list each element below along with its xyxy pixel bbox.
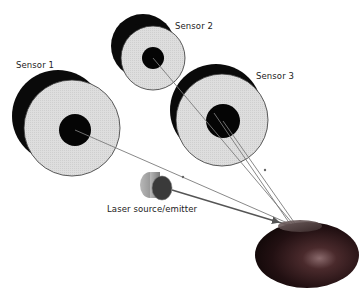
laser-emitter — [140, 172, 172, 200]
sensor-2-label: Sensor 2 — [175, 21, 213, 31]
sample-dimple — [278, 220, 322, 232]
diagram-canvas — [0, 0, 361, 291]
sensor-3-label: Sensor 3 — [256, 71, 294, 81]
sample — [255, 220, 359, 288]
sensor-1 — [12, 70, 120, 176]
emitter-label: Laser source/emitter — [107, 204, 197, 214]
sensor-3 — [170, 64, 268, 166]
sample-body — [255, 222, 359, 288]
beam-marker — [182, 176, 184, 178]
sensor-2 — [111, 14, 185, 90]
beam-marker — [264, 169, 266, 171]
emitter-face — [152, 176, 172, 200]
sensor-1-label: Sensor 1 — [16, 60, 54, 70]
